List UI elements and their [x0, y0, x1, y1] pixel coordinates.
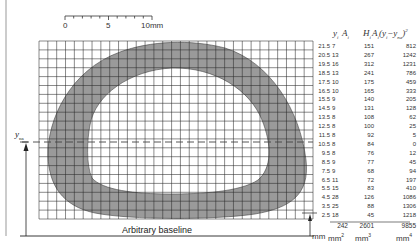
cell-A: 13	[332, 51, 344, 60]
total-A: 242	[330, 222, 348, 229]
cell-y: 12.5	[306, 122, 330, 131]
table-row: 17.510175459	[306, 78, 419, 87]
unit-M: mm4	[396, 232, 412, 243]
cell-H: 45	[352, 211, 374, 220]
cell-y: 2.5	[306, 211, 330, 220]
cell-y: 16.5	[306, 87, 330, 96]
cell-A: 9	[332, 167, 344, 176]
table-row: 15.59140205	[306, 95, 419, 104]
cell-M: 786	[386, 69, 416, 78]
cell-y: 10.5	[306, 140, 330, 149]
scale-label-0: 0	[63, 21, 67, 30]
cell-y: 13.5	[306, 113, 330, 122]
section-shape	[48, 42, 307, 218]
cell-A: 10	[332, 87, 344, 96]
cell-y: 15.5	[306, 95, 330, 104]
table-row: 19.5163121231	[306, 60, 419, 69]
cell-y: 3.5	[306, 202, 330, 211]
cell-M: 333	[386, 87, 416, 96]
cell-H: 108	[352, 113, 374, 122]
cell-H: 72	[352, 176, 374, 185]
cell-M: 1086	[386, 193, 416, 202]
scale-label-5: 5	[106, 21, 110, 30]
cell-A: 9	[332, 158, 344, 167]
baseline-label: Arbitrary baseline	[122, 225, 192, 235]
unit-A: mm2	[328, 232, 344, 243]
cell-H: 77	[352, 158, 374, 167]
table-row: 5.51583410	[306, 184, 419, 193]
cell-M: 197	[386, 176, 416, 185]
cell-M: 12	[386, 149, 416, 158]
cell-A: 8	[332, 113, 344, 122]
cell-H: 76	[352, 149, 374, 158]
cell-A: 8	[332, 131, 344, 140]
cell-H: 241	[352, 69, 374, 78]
cell-M: 205	[386, 95, 416, 104]
cell-H: 267	[352, 51, 374, 60]
cell-M: 62	[386, 113, 416, 122]
cell-y: 8.5	[306, 158, 330, 167]
scale-bar	[65, 16, 152, 20]
cell-y: 21.5	[306, 42, 330, 51]
cell-M: 5	[386, 131, 416, 140]
table-row: 2.518451218	[306, 211, 419, 220]
cell-M: 459	[386, 78, 416, 87]
cell-M: 45	[386, 158, 416, 167]
cell-M: 128	[386, 104, 416, 113]
cell-H: 131	[352, 104, 374, 113]
table-row: 14.59131128	[306, 104, 419, 113]
table-row: 12.5810025	[306, 122, 419, 131]
cell-H: 312	[352, 60, 374, 69]
cell-H: 175	[352, 78, 374, 87]
cell-A: 16	[332, 60, 344, 69]
table-row: 10.58840	[306, 140, 419, 149]
cell-A: 10	[332, 78, 344, 87]
cell-A: 15	[332, 184, 344, 193]
table-row: 20.5132671242	[306, 51, 419, 60]
total-M: 9855	[386, 222, 416, 229]
cell-H: 83	[352, 184, 374, 193]
cell-H: 92	[352, 131, 374, 140]
cell-M: 94	[386, 167, 416, 176]
cell-M: 812	[386, 42, 416, 51]
cell-y: 14.5	[306, 104, 330, 113]
unit-H: mm3	[355, 232, 371, 243]
cell-A: 9	[332, 104, 344, 113]
cell-A: 13	[332, 69, 344, 78]
scale-label-10mm: 10mm	[141, 21, 163, 30]
cell-y: 19.5	[306, 60, 330, 69]
cell-H: 88	[352, 202, 374, 211]
neutral-axis-label: yna	[15, 129, 24, 141]
cell-H: 165	[352, 87, 374, 96]
cell-M: 1231	[386, 60, 416, 69]
cell-A: 8	[332, 140, 344, 149]
cell-y: 11.5	[306, 131, 330, 140]
cell-H: 84	[352, 140, 374, 149]
table-row: 8.597745	[306, 158, 419, 167]
cell-y: 20.5	[306, 51, 330, 60]
table-row: 3.525881306	[306, 202, 419, 211]
cell-y: 18.5	[306, 69, 330, 78]
table-row: 7.596894	[306, 167, 419, 176]
measurement-grid	[39, 41, 313, 219]
cell-A: 25	[332, 202, 344, 211]
cell-H: 151	[352, 42, 374, 51]
cell-H: 140	[352, 95, 374, 104]
cell-A: 8	[332, 149, 344, 158]
cell-y: 6.5	[306, 176, 330, 185]
cell-M: 1242	[386, 51, 416, 60]
cell-y: 9.5	[306, 149, 330, 158]
cell-y: 17.5	[306, 78, 330, 87]
cell-A: 28	[332, 193, 344, 202]
table-row: 6.51172197	[306, 176, 419, 185]
cell-H: 100	[352, 122, 374, 131]
cell-M: 1306	[386, 202, 416, 211]
cell-M: 1218	[386, 211, 416, 220]
header-H: Hi	[363, 28, 371, 40]
cell-A: 7	[332, 42, 344, 51]
cell-A: 8	[332, 122, 344, 131]
table-row: 4.5281261086	[306, 193, 419, 202]
cell-A: 18	[332, 211, 344, 220]
cell-y: 5.5	[306, 184, 330, 193]
header-y: yi	[333, 28, 338, 40]
